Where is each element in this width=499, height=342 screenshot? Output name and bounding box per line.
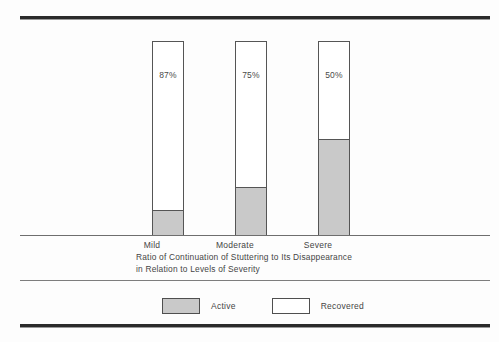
legend-item-active: Active (162, 298, 236, 314)
legend-swatch-active-icon (162, 298, 200, 314)
bar-segment-active-moderate (236, 187, 266, 235)
legend-label-active: Active (211, 301, 236, 311)
bar-segment-recovered-mild: 87% (153, 42, 183, 210)
axis-baseline (20, 235, 490, 236)
bar-label-severe: 50% (325, 70, 343, 139)
bar-moderate: 75% (235, 41, 267, 236)
caption-divider-rule (20, 280, 490, 281)
category-label-mild: Mild (107, 240, 197, 250)
bar-segment-recovered-moderate: 75% (236, 42, 266, 187)
figure-container: 87% 75% 50% Mild Moderate Severe Ratio o… (0, 0, 499, 342)
bottom-divider-rule (20, 324, 490, 327)
chart-legend: Active Recovered (162, 298, 364, 314)
legend-swatch-recovered-icon (272, 298, 310, 314)
legend-label-recovered: Recovered (321, 301, 364, 311)
bar-segment-recovered-severe: 50% (319, 42, 349, 139)
caption-line-1: Ratio of Continuation of Stuttering to I… (136, 252, 436, 264)
bar-label-mild: 87% (159, 70, 177, 210)
bar-label-moderate: 75% (242, 70, 260, 187)
category-label-moderate: Moderate (190, 240, 280, 250)
caption-line-2: in Relation to Levels of Severity (136, 264, 436, 276)
bar-segment-active-severe (319, 139, 349, 236)
chart-caption: Ratio of Continuation of Stuttering to I… (136, 252, 436, 275)
top-divider-rule (20, 16, 490, 19)
bar-severe: 50% (318, 41, 350, 236)
legend-item-recovered: Recovered (272, 298, 364, 314)
bar-mild: 87% (152, 41, 184, 236)
category-label-severe: Severe (273, 240, 363, 250)
bar-segment-active-mild (153, 210, 183, 235)
plot-area: 87% 75% 50% (20, 40, 490, 236)
